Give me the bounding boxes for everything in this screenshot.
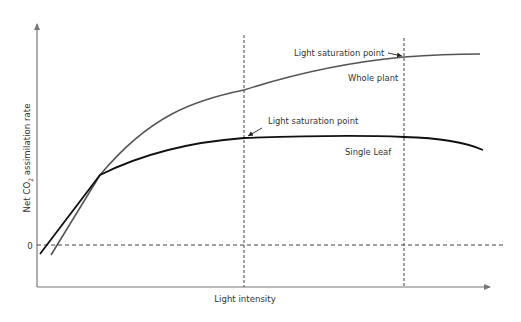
whole-plant-label: Whole plant <box>348 73 399 83</box>
y-axis-label: Net CO2 assimilation rate <box>22 104 34 213</box>
single-leaf-saturation-arrow-icon <box>248 128 262 136</box>
whole-plant-saturation-label: Light saturation point <box>294 48 385 58</box>
single-leaf-curve <box>40 136 483 254</box>
zero-tick-label: 0 <box>27 241 32 251</box>
x-axis-label: Light intensity <box>214 294 275 304</box>
single-leaf-label: Single Leaf <box>345 147 392 157</box>
whole-plant-curve <box>51 54 480 255</box>
whole-plant-saturation-arrow-icon <box>388 53 402 56</box>
diagram-canvas: Net CO2 assimilation rate 0 Light intens… <box>0 0 521 322</box>
single-leaf-saturation-label: Light saturation point <box>268 116 359 126</box>
